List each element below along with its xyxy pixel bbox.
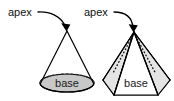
pyramid-base-label: base bbox=[124, 77, 148, 89]
pyramid-apex-label: apex bbox=[84, 6, 108, 18]
pyramid-apex-arrowhead bbox=[129, 24, 138, 32]
cone-apex-leader-line bbox=[38, 12, 66, 27]
geometry-diagram: base apex bbox=[0, 0, 174, 101]
diagram-canvas: base apex bbox=[0, 0, 174, 101]
cone-apex-label: apex bbox=[8, 6, 32, 18]
cone-base-label: base bbox=[55, 77, 79, 89]
pyramid-figure: base apex bbox=[84, 6, 170, 95]
cone-figure: base apex bbox=[8, 6, 94, 92]
cone-apex-arrowhead bbox=[61, 23, 70, 31]
